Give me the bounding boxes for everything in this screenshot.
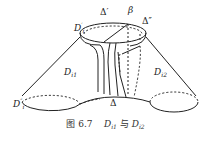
label-d-double-prime: D″i [13,98,24,110]
top-ellipse-back [80,23,146,33]
right-bottom-ellipse [150,102,198,112]
top-ellipse-front [80,33,146,43]
left-bottom-ellipse [22,102,80,111]
top-inner-dashed [84,26,142,34]
label-d-i2: Di2 [154,68,167,78]
label-d-prime: D′i [74,22,85,34]
figure-caption: 图 6.7 Di1 与 Di2 [0,117,211,130]
label-delta-prime: Δ′ [100,8,109,17]
label-delta-double-prime: Δ″ [142,17,152,26]
label-beta: β [128,6,133,15]
label-delta: Δ [110,99,117,108]
label-d-i1: Di1 [64,68,77,78]
